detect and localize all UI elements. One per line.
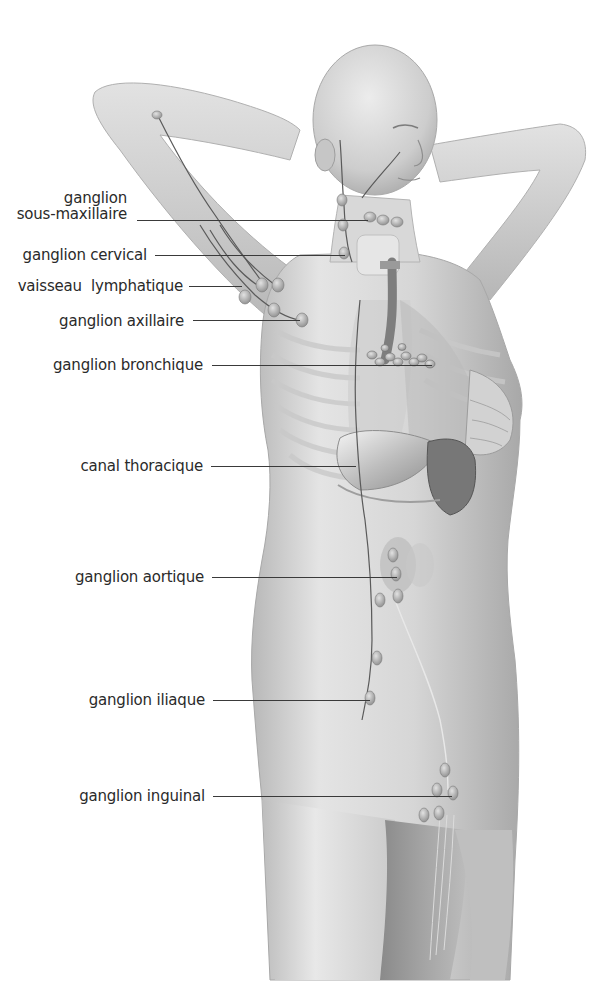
leader-line: [155, 255, 345, 256]
label-text: ganglion inguinal: [79, 788, 205, 804]
label-text: sous-maxillaire: [17, 206, 127, 222]
label-text: ganglion bronchique: [53, 357, 203, 373]
leader-line: [212, 365, 432, 366]
label-text: canal thoracique: [81, 458, 203, 474]
body-illustration: [0, 0, 599, 996]
leader-line: [212, 577, 397, 578]
label-text: vaisseau lymphatique: [18, 278, 183, 294]
head: [313, 45, 437, 195]
leader-line: [213, 700, 370, 701]
leader-line: [189, 286, 242, 287]
label-text: ganglion iliaque: [89, 692, 205, 708]
label-text: ganglion axillaire: [59, 313, 184, 329]
leader-line: [211, 466, 356, 467]
abdomen-organs: [380, 537, 434, 593]
label-text: ganglion cervical: [23, 247, 147, 263]
label-text: ganglion: [64, 190, 127, 206]
lymphatic-diagram: ganglion sous-maxillaire ganglion cervic…: [0, 0, 599, 996]
leader-line: [213, 796, 452, 797]
leader-line: [137, 220, 368, 221]
label-text: ganglion aortique: [75, 569, 204, 585]
leader-line: [193, 320, 300, 321]
